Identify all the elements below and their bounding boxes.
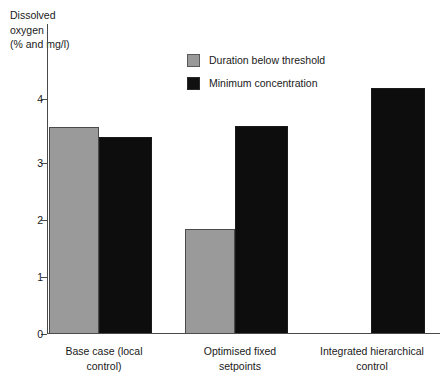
x-category-label-optimised: Optimised fixed setpoints xyxy=(170,344,310,373)
x-category-label-integrated-line2: control xyxy=(303,359,441,374)
bar-chart: Dissolved oxygen (% and mg/l) Duration b… xyxy=(0,0,442,388)
x-category-label-integrated-line1: Integrated hierarchical xyxy=(303,344,441,359)
x-category-label-optimised-line1: Optimised fixed xyxy=(170,344,310,359)
x-axis-line xyxy=(47,333,440,334)
y-tick-label-4: 4 xyxy=(37,93,43,105)
y-tick-label-0: 0 xyxy=(37,328,43,340)
bar-minimum-optimised xyxy=(235,126,288,333)
bar-duration-optimised xyxy=(185,229,235,333)
x-category-label-integrated: Integrated hierarchical control xyxy=(303,344,441,373)
plot-area: 4 3 2 1 0 xyxy=(47,24,440,334)
bar-duration-base-case xyxy=(49,127,99,333)
x-category-label-base-case-line2: control) xyxy=(34,359,174,374)
x-category-label-base-case-line1: Base case (local xyxy=(34,344,174,359)
y-tick-label-2: 2 xyxy=(37,214,43,226)
y-tick-label-1: 1 xyxy=(37,271,43,283)
bar-minimum-base-case xyxy=(99,137,152,333)
y-axis-line xyxy=(47,24,48,334)
x-category-label-base-case: Base case (local control) xyxy=(34,344,174,373)
x-category-label-optimised-line2: setpoints xyxy=(170,359,310,374)
y-tick-label-3: 3 xyxy=(37,157,43,169)
bar-minimum-integrated xyxy=(371,88,425,333)
